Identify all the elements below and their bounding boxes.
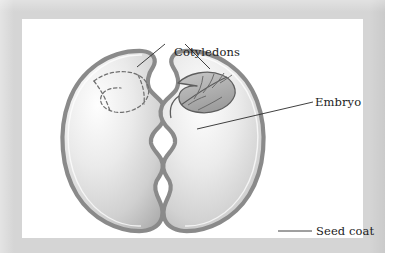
label-seed-coat: Seed coat: [316, 224, 374, 238]
left-cotyledon-group: [62, 51, 165, 231]
left-seed-coat: [62, 51, 165, 231]
label-cotyledons: Cotyledons: [174, 45, 240, 59]
label-embryo: Embryo: [315, 95, 361, 109]
right-cotyledon-group: [161, 51, 264, 231]
diagram-panel: Cotyledons Embryo Seed coat: [22, 19, 363, 238]
figure-stage: Cotyledons Embryo Seed coat: [0, 0, 397, 265]
